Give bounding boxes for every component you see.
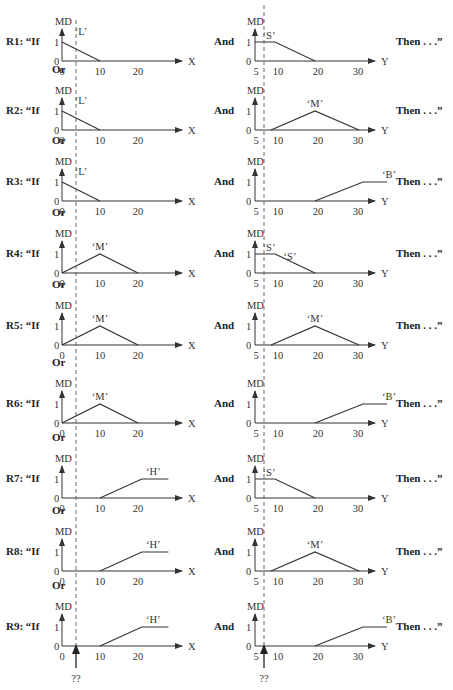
y-membership-chart: MD105102030Y‘B’ [246, 378, 396, 439]
md-tick-1: 1 [54, 474, 59, 485]
x-tick: 10 [95, 428, 106, 439]
y-axis-label: Y [381, 268, 389, 279]
y-axis-label: Y [381, 418, 389, 429]
y-set-label: ‘S’ [263, 30, 276, 41]
x-tick: 20 [133, 206, 144, 217]
x-membership-chart: MD1001020X‘H’ [54, 526, 196, 587]
md-tick-1: 1 [246, 177, 251, 188]
y-set-m-curve [271, 326, 359, 345]
y-tick: 30 [353, 206, 364, 217]
md-tick-0: 0 [246, 125, 251, 136]
x-membership-chart: MD1001020X‘M’ [54, 228, 196, 289]
y-tick: 5 [253, 350, 258, 361]
and-connector: And [214, 472, 234, 484]
rule-label: R4: “If [6, 247, 40, 259]
y-tick: 10 [273, 278, 284, 289]
x-set-label: ‘M’ [92, 241, 108, 252]
or-connector: Or [52, 278, 66, 290]
rule-row-r3: R3: “IfOrMD1001020X‘L’AndMD105102030Y‘B’… [6, 134, 442, 217]
x-set-h-curve [100, 479, 168, 498]
x-membership-chart: MD1001020X‘L’ [54, 156, 196, 217]
rule-label: R1: “If [6, 35, 40, 47]
x-axis-label: X [188, 418, 196, 429]
md-axis-label: MD [55, 378, 72, 389]
y-axis-label: Y [381, 641, 389, 652]
x-set-label: ‘H’ [146, 466, 161, 477]
md-axis-label: MD [55, 156, 72, 167]
y-membership-chart: MD105102030Y‘M’ [246, 300, 389, 361]
x-membership-chart: MD1001020X‘M’ [54, 300, 196, 361]
md-tick-1: 1 [54, 106, 59, 117]
y-set-label: ‘M’ [307, 313, 323, 324]
then-connector: Then . . .” [396, 247, 442, 259]
y-set-label: ‘B’ [382, 391, 396, 402]
or-connector: Or [52, 134, 66, 146]
y-set-label-secondary: ‘S’ [284, 251, 297, 262]
then-connector: Then . . .” [396, 472, 442, 484]
y-tick: 10 [273, 428, 284, 439]
rule-label: R3: “If [6, 175, 40, 187]
rule-row-r4: R4: “IfOrMD1001020X‘M’AndMD105102030Y‘S’… [6, 206, 442, 289]
md-tick-0: 0 [246, 641, 251, 652]
left-unknown-input-arrow: ?? [71, 644, 81, 684]
y-tick: 20 [313, 350, 324, 361]
right-unknown-label: ?? [259, 673, 269, 684]
md-axis-label: MD [247, 453, 264, 464]
and-connector: And [214, 247, 234, 259]
y-tick: 30 [353, 503, 364, 514]
y-tick: 10 [273, 576, 284, 587]
y-tick: 5 [253, 428, 258, 439]
md-tick-1: 1 [246, 547, 251, 558]
x-set-m-curve [62, 326, 138, 345]
x-set-h-curve [100, 552, 168, 571]
y-membership-chart: MD105102030Y‘S’ [246, 16, 389, 77]
md-axis-label: MD [55, 16, 72, 27]
y-tick: 5 [253, 135, 258, 146]
rule-row-r9: R9: “IfOrMD1001020X‘H’AndMD105102030Y‘B’… [6, 579, 442, 662]
x-set-label: ‘H’ [146, 614, 161, 625]
x-membership-chart: MD1001020X‘H’ [54, 453, 196, 514]
y-membership-chart: MD105102030Y‘B’ [246, 601, 396, 662]
md-tick-0: 0 [246, 418, 251, 429]
y-tick: 10 [273, 651, 284, 662]
then-connector: Then . . .” [396, 397, 442, 409]
x-tick: 10 [95, 576, 106, 587]
x-tick: 20 [133, 428, 144, 439]
md-axis-label: MD [55, 228, 72, 239]
x-tick: 20 [133, 350, 144, 361]
rule-label: R7: “If [6, 472, 40, 484]
x-tick: 20 [133, 503, 144, 514]
md-axis-label: MD [247, 156, 264, 167]
right-unknown-input-arrow: ?? [259, 644, 269, 684]
and-connector: And [214, 397, 234, 409]
then-connector: Then . . .” [396, 319, 442, 331]
rule-label: R9: “If [6, 620, 40, 632]
y-tick: 10 [273, 66, 284, 77]
md-tick-1: 1 [246, 106, 251, 117]
y-tick: 5 [253, 278, 258, 289]
y-tick: 30 [353, 651, 364, 662]
rule-row-r1: R1: “IfMD1001020X‘L’AndMD105102030Y‘S’Th… [6, 16, 442, 77]
x-set-l-curve [62, 182, 100, 201]
or-connector: Or [52, 206, 66, 218]
y-axis-label: Y [381, 56, 389, 67]
x-axis-label: X [188, 340, 196, 351]
or-connector: Or [52, 504, 66, 516]
rule-row-r6: R6: “IfOrMD1001020X‘M’AndMD105102030Y‘B’… [6, 356, 442, 439]
y-tick: 20 [313, 576, 324, 587]
y-set-label: ‘M’ [307, 98, 323, 109]
y-tick: 5 [253, 576, 258, 587]
y-axis-label: Y [381, 493, 389, 504]
x-set-h-curve [100, 627, 168, 646]
then-connector: Then . . .” [396, 175, 442, 187]
x-set-label: ‘M’ [92, 313, 108, 324]
rule-row-r2: R2: “IfOrMD1001020X‘L’AndMD105102030Y‘M’… [6, 63, 442, 146]
x-tick: 10 [95, 651, 106, 662]
x-tick: 20 [133, 66, 144, 77]
then-connector: Then . . .” [396, 620, 442, 632]
md-tick-1: 1 [246, 249, 251, 260]
or-connector: Or [52, 431, 66, 443]
y-set-m-curve [271, 111, 359, 130]
x-tick: 10 [95, 350, 106, 361]
y-membership-chart: MD105102030Y‘M’ [246, 526, 389, 587]
